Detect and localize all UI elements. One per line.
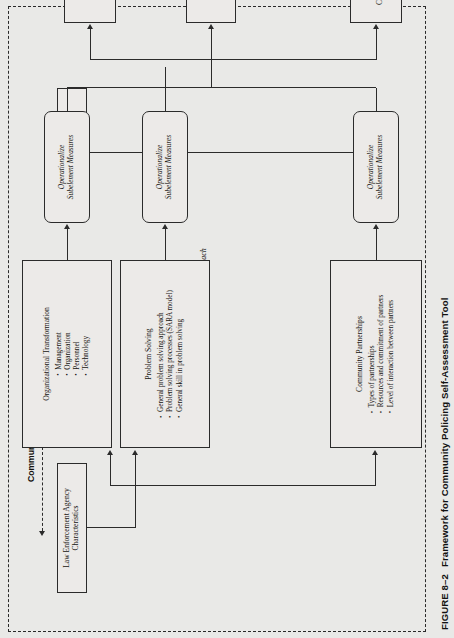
box-title: Law Enforcement Agency Characteristics [63,468,81,588]
connector-op-cp-out [376,88,377,111]
bullet-item: General skill in problem solving [176,290,185,418]
box-operationalize-partnerships[interactable]: Operationalize Subelement Measures [353,111,399,223]
figure-caption-text: Framework for Community Policing Self-As… [439,298,450,568]
connector-org-arrow [107,450,113,455]
connector-riser-partnerships [135,485,375,486]
box-title-line2: Subelement Measures [376,135,385,199]
box-title: Organizational Transformation [43,307,52,401]
box-law-enforcement-agency-characteristics[interactable]: Law Enforcement Agency Characteristics [57,463,87,593]
connector-org-to-op-arrow [64,224,70,229]
box-title-line1: Implementation of Organizational [77,0,95,18]
box-organizational-transformation[interactable]: Organizational Transformation Management… [22,260,112,448]
bullet-list: Management Organization Personnel Techno… [55,332,91,376]
connector-op-ps-out [165,67,166,111]
definition-dashed-arrow-left [39,531,45,536]
connector-impl-org-h [90,28,91,60]
box-implementation-problem-solving[interactable]: Implementation of Problem Solving [186,0,236,23]
box-title: Problem Solving [145,328,154,379]
connector-impl-cp-h [376,28,377,60]
bullet-item: Management [55,332,64,376]
connector-op-bus [67,87,376,88]
connector-riser-org-h [110,454,111,486]
bullet-item: Level of interaction between partners [387,295,396,414]
bullet-item: Types of partnerships [368,295,377,414]
connector-impl-org-arrow [87,24,93,29]
bullet-item: Problem solving processes (SARA model) [166,290,175,418]
bullet-list: Types of partnerships Resources and comm… [368,295,395,414]
connector-community-drop [87,152,392,153]
connector-riser-partnerships-h [375,454,376,486]
connector-analytic-spine [211,28,212,88]
connector-impl-cp-arrow [373,24,379,29]
connector-impl-org-riser [90,59,211,60]
connector-cp-to-op [376,228,377,260]
connector-impl-cp-riser [211,59,376,60]
box-title-line2: Subelement Measures [165,135,174,199]
bullet-item: Organization [64,332,73,376]
connector-partnerships-arrow [372,450,378,455]
box-problem-solving[interactable]: Problem Solving General problem solving … [120,260,210,448]
box-community-partnerships[interactable]: Community Partnerships Types of partners… [330,260,422,448]
bullet-list: General problem solving approach Problem… [157,290,184,418]
connector-ps-to-op [165,228,166,260]
connector-analytic-arrow [208,24,214,29]
connector-ps-to-op-arrow [162,224,168,229]
box-operationalize-organizational[interactable]: Operationalize Subelement Measures [44,111,90,223]
connector-cp-to-op-arrow [373,224,379,229]
box-operationalize-problem-solving[interactable]: Operationalize Subelement Measures [142,111,188,223]
figure-stage: Community Policing Definition Community … [0,0,454,638]
box-title-line2: Subelement Measures [67,135,76,199]
connector-elements-spine [135,454,136,528]
figure-number: FIGURE 8–2 [439,574,450,630]
connector-elements-spine-arrow [132,450,138,455]
connector-riser-org [110,485,135,486]
box-title: Community Partnerships [356,316,365,392]
box-implementation-organizational-transformation[interactable]: Implementation of Organizational Transfo… [64,0,116,23]
connector-lea-drop [87,527,135,528]
box-implementation-community-partnerships[interactable]: Implementation of Community Partnerships [350,0,402,23]
connector-org-to-op [67,228,68,260]
connector-op-org-out [67,88,68,111]
box-title-line2: Community Partnerships [376,0,385,5]
figure-caption: FIGURE 8–2Framework for Community Polici… [439,298,450,630]
bullet-item: Technology [82,332,91,376]
bullet-item: General problem solving approach [157,290,166,418]
bullet-item: Resources and commitment of partners [377,295,386,414]
bullet-item: Personnel [73,332,82,376]
